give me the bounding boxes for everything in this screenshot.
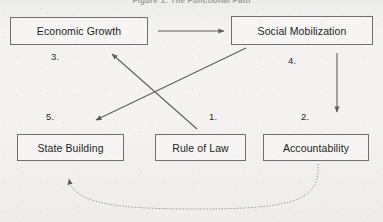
node-state-building[interactable]: State Building [17, 134, 124, 161]
node-label: State Building [37, 142, 103, 154]
node-accountability[interactable]: Accountability [263, 134, 369, 161]
node-label: Accountability [283, 142, 349, 154]
edge-number-label-2: 2. [301, 111, 309, 122]
node-label: Economic Growth [37, 25, 121, 37]
edge-number-label-1: 1. [209, 111, 217, 122]
node-social-mobilization[interactable]: Social Mobilization [231, 16, 373, 45]
edge-accountability-to-state-building [69, 164, 318, 209]
edge-number-label-5: 5. [46, 111, 54, 122]
node-rule-of-law[interactable]: Rule of Law [155, 134, 246, 161]
node-label: Rule of Law [172, 142, 229, 154]
figure-canvas: Figure 1: The Functional Path Economic G… [0, 0, 383, 222]
node-economic-growth[interactable]: Economic Growth [10, 17, 148, 45]
edge-number-label-3: 3. [51, 51, 59, 62]
edge-number-label-4: 4. [288, 55, 296, 66]
edge-mobilization-to-state-building [96, 48, 246, 120]
node-label: Social Mobilization [258, 25, 347, 37]
